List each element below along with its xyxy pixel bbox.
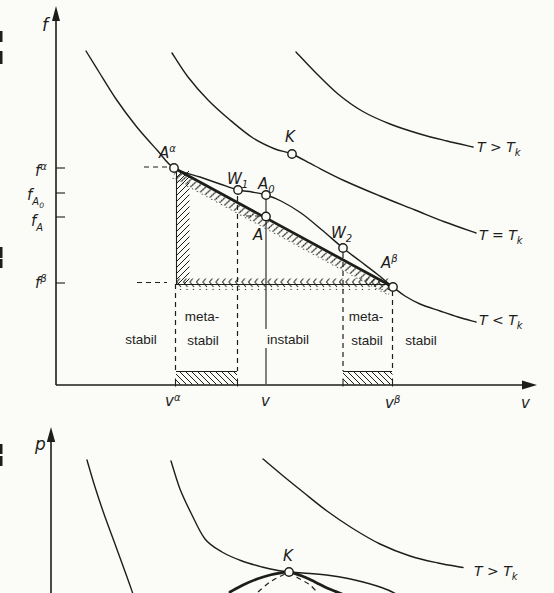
label-A-alpha: Aα xyxy=(158,143,176,162)
v-axis-arrowhead xyxy=(522,381,537,390)
label-T-gt-Tk-bottom: T > Tk xyxy=(474,563,519,582)
label-W2: W2 xyxy=(331,224,352,244)
region-stabil-right: stabil xyxy=(405,333,437,348)
free-energy-chart: f v fα fA0 fA fβ vα v vβ Aα W1 A0 A W2 A… xyxy=(27,6,537,412)
tangent-hatch-band xyxy=(172,171,392,296)
ytick-f-A: fA xyxy=(31,212,43,233)
p-axis-arrowhead xyxy=(47,427,55,442)
scan-artifact-marks xyxy=(0,31,3,466)
isotherm-diagram-svg: f v fα fA0 fA fβ vα v vβ Aα W1 A0 A W2 A… xyxy=(0,0,554,593)
region-stabil-left: stabil xyxy=(125,332,157,347)
ytick-f-beta: fβ xyxy=(35,273,47,292)
region-metastabil-left-line2: stabil xyxy=(187,333,219,348)
double-tangent-line xyxy=(174,168,393,287)
v-axis-label: v xyxy=(521,394,531,412)
point-K-top xyxy=(288,150,296,158)
point-A-alpha xyxy=(170,164,178,172)
xtick-v: v xyxy=(261,392,271,410)
isotherm-supercritical xyxy=(296,52,473,147)
f-axis-label: f xyxy=(42,15,51,35)
ytick-f-alpha: fα xyxy=(35,161,47,180)
label-T-eq-Tk: T = Tk xyxy=(479,227,524,246)
f-axis-arrowhead xyxy=(52,6,60,21)
label-A0: A0 xyxy=(257,175,275,195)
point-A xyxy=(262,212,270,220)
isotherm-critical xyxy=(172,53,476,233)
label-K-bottom: K xyxy=(283,547,294,565)
v-alpha-hatch-band xyxy=(177,171,190,284)
ytick-f-A0: fA0 xyxy=(27,186,44,210)
point-A-beta xyxy=(389,283,397,291)
region-metastabil-left-line1: meta- xyxy=(185,309,220,324)
f-axis-ticks xyxy=(56,168,65,283)
label-W1: W1 xyxy=(227,170,248,190)
region-metastabil-right-line1: meta- xyxy=(349,309,384,324)
f-beta-chevron-hatch xyxy=(177,279,390,291)
label-A-beta: Aβ xyxy=(380,253,398,272)
label-A: A xyxy=(252,226,263,244)
label-T-lt-Tk: T < Tk xyxy=(479,312,524,331)
label-T-gt-Tk: T > Tk xyxy=(477,139,522,158)
figure-scan: f v fα fA0 fA fβ vα v vβ Aα W1 A0 A W2 A… xyxy=(0,0,554,593)
metastable-axis-strips xyxy=(176,372,393,385)
point-W2 xyxy=(339,244,347,252)
p-isotherm-subcritical-left-branch xyxy=(87,460,133,593)
point-K-bottom xyxy=(285,568,293,576)
p-isotherm-supercritical xyxy=(263,459,463,568)
pressure-chart: p K T > Tk xyxy=(34,427,519,593)
region-instabil: instabil xyxy=(267,332,309,347)
p-axis-label: p xyxy=(34,434,46,454)
xtick-v-beta: vβ xyxy=(385,394,401,412)
region-metastabil-right-line2: stabil xyxy=(351,333,383,348)
xtick-v-alpha: vα xyxy=(165,392,181,410)
label-K-top: K xyxy=(285,128,296,146)
